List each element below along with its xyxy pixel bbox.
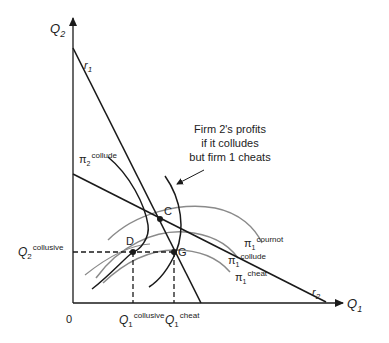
point-C-label: C [164, 205, 172, 217]
annotation-arrow [177, 170, 204, 184]
pi2-collude-label: π2collude [79, 151, 117, 167]
origin-label: 0 [66, 313, 72, 325]
pi1-collude-label: π1collude [228, 252, 266, 268]
q1-cheat-label: Q1cheat [165, 311, 200, 329]
point-G-label: G [178, 246, 187, 258]
point-D [130, 249, 136, 255]
point-G [171, 249, 177, 255]
point-D-label: D [126, 235, 134, 247]
q1-collusive-label: Q1collusive [119, 311, 165, 329]
reaction-function-r1 [73, 48, 201, 303]
q2-collusive-label: Q2collusive [18, 243, 64, 261]
annotation-line-1: Firm 2's profits [194, 123, 266, 135]
pi1-cournot-label: π1cournot [244, 235, 284, 251]
r2-label: r2 [312, 286, 321, 301]
annotation-line-3: but firm 1 cheats [189, 151, 271, 163]
isoprofit-pi1-cheat [103, 250, 230, 283]
annotation-line-2: if it colludes [201, 137, 259, 149]
pi1-cheat-label: π1cheat [235, 269, 268, 285]
point-C [157, 216, 163, 222]
x-axis-label: Q1 [347, 296, 362, 314]
y-axis-label: Q2 [50, 21, 65, 39]
reaction-function-diagram: Q2 Q1 0 r1 r2 C D G π2collude π1cournot … [0, 0, 389, 343]
